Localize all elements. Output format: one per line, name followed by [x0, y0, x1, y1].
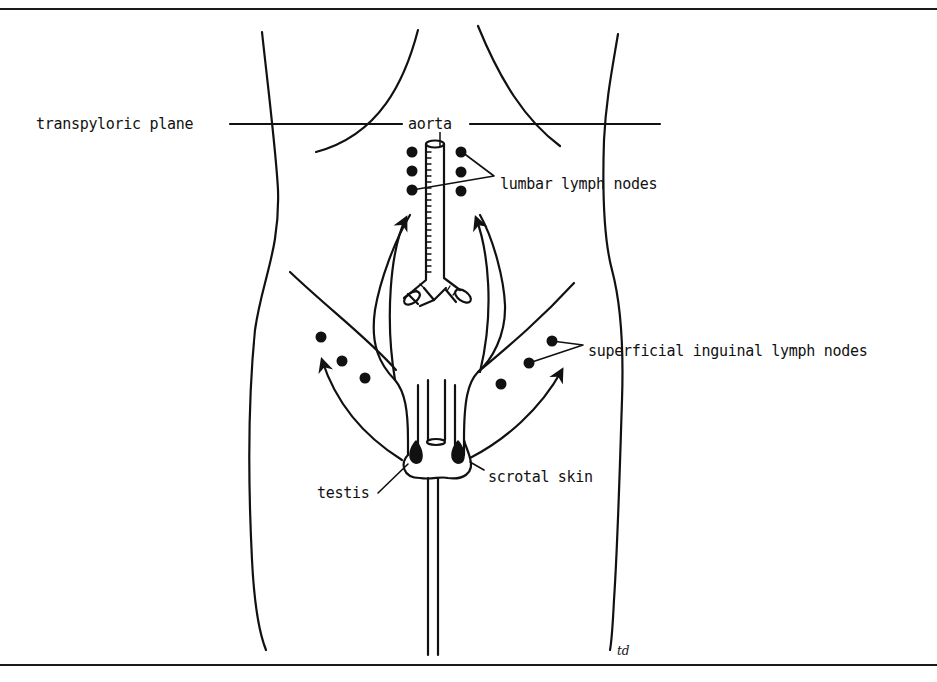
- label-aorta: aorta: [408, 117, 452, 132]
- artist-signature: td: [617, 644, 630, 658]
- arrow-testis-to-lumbar-right: [476, 218, 489, 372]
- aorta-tube: [408, 144, 460, 295]
- superficial-inguinal-lymph-nodes: [316, 332, 558, 390]
- testes: [409, 440, 465, 464]
- label-testis: testis: [317, 486, 369, 501]
- diagram-canvas: [0, 0, 937, 682]
- leader-testis: [378, 464, 408, 493]
- costal-margin-left: [316, 30, 418, 152]
- arrow-scrotal-to-inguinal-right: [470, 370, 562, 458]
- label-transpyloric-plane: transpyloric plane: [36, 117, 193, 132]
- label-lumbar-lymph-nodes: lumbar lymph nodes: [500, 177, 657, 192]
- testicular-vessel-path: [374, 215, 410, 455]
- leader-lumbar: [412, 152, 494, 190]
- lumbar-lymph-nodes: [407, 147, 467, 197]
- label-superficial-inguinal-lymph-nodes: superficial inguinal lymph nodes: [588, 344, 867, 359]
- costal-margin-right: [478, 26, 560, 146]
- label-scrotal-skin: scrotal skin: [488, 470, 593, 485]
